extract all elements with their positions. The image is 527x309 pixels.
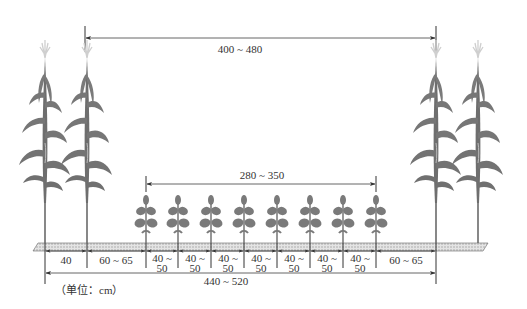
unit-note: （单位：cm） — [55, 283, 123, 296]
corn-plant-icon — [19, 40, 70, 243]
soybean-plant-icon — [232, 195, 257, 243]
intercropping-layout-diagram: 400 ~ 480 280 ~ 350 — [0, 0, 527, 309]
corn-plants-right — [410, 40, 503, 243]
label-soy-spacing-2b: 50 — [190, 262, 202, 274]
dimension-soybean-span: 280 ~ 350 — [146, 169, 376, 192]
soybean-plant-icon — [298, 195, 323, 243]
label-corn-to-soy-right: 60 ~ 65 — [389, 254, 423, 266]
row-spacing-labels: 40 60 ~ 65 40 ~ 50 40 ~ 50 40 ~ 50 40 ~ … — [61, 252, 424, 274]
soybean-plant-icon — [331, 195, 356, 243]
corn-plant-icon — [452, 40, 503, 243]
label-soy-spacing-3b: 50 — [223, 262, 235, 274]
soybean-plant-icon — [364, 195, 389, 243]
corn-plant-icon — [61, 40, 112, 243]
label-soy-spacing-5b: 50 — [289, 262, 301, 274]
soybean-plant-icon — [166, 195, 191, 243]
label-corn-wide-row: 400 ~ 480 — [218, 43, 263, 55]
label-soy-spacing-6b: 50 — [322, 262, 334, 274]
label-corn-to-soy-left: 60 ~ 65 — [99, 254, 133, 266]
label-soy-spacing-7b: 50 — [355, 262, 367, 274]
soybean-plant-icon — [134, 195, 159, 243]
label-corn-narrow-row: 40 — [61, 254, 73, 266]
ground-strip — [33, 243, 488, 251]
dimension-corn-wide-row: 400 ~ 480 — [85, 26, 436, 55]
soybean-plant-icon — [199, 195, 224, 243]
label-total-strip: 440 ~ 520 — [204, 275, 249, 287]
label-soybean-span: 280 ~ 350 — [240, 169, 285, 181]
corn-plant-icon — [410, 40, 461, 243]
soybean-plants — [134, 195, 389, 243]
label-soy-spacing-4b: 50 — [256, 262, 268, 274]
soybean-plant-icon — [265, 195, 290, 243]
corn-plants-left — [19, 40, 112, 243]
label-soy-spacing-1b: 50 — [157, 262, 169, 274]
